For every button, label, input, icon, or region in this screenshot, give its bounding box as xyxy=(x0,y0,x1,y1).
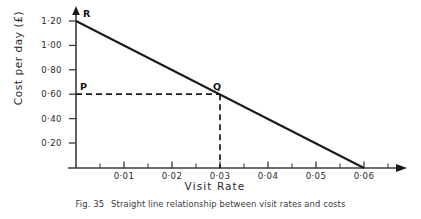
y-tick-label-0-60: 0·60 xyxy=(28,89,62,99)
y-tick-label-1-20: 1·20 xyxy=(28,16,62,26)
x-tick-label-0-06: 0·06 xyxy=(344,171,384,181)
x-tick-label-0-01: 0·01 xyxy=(104,171,144,181)
annotation-label-r: R xyxy=(83,8,90,19)
y-tick-label-0-40: 0·40 xyxy=(28,114,62,124)
x-tick-label-0-05: 0·05 xyxy=(296,171,336,181)
x-axis-arrow-icon xyxy=(396,164,407,172)
figure-straight-line-visit-rate-cost: Cost per day (£) 1·20 1·00 0·80 0·60 0·4… xyxy=(0,0,421,219)
y-tick-label-1-00: 1·00 xyxy=(28,40,62,50)
figure-caption: Fig. 35Straight line relationship betwee… xyxy=(0,199,421,209)
x-axis-label: Visit Rate xyxy=(150,180,280,192)
annotation-label-p: P xyxy=(80,81,87,92)
figure-caption-text: Straight line relationship between visit… xyxy=(111,199,345,209)
figure-number: Fig. 35 xyxy=(76,199,105,209)
y-axis-ticks xyxy=(69,21,76,143)
y-axis-arrow-icon xyxy=(72,6,80,15)
y-tick-label-0-20: 0·20 xyxy=(28,138,62,148)
y-axis-label: Cost per day (£) xyxy=(12,0,24,123)
annotation-label-q: Q xyxy=(213,81,221,92)
y-tick-label-0-80: 0·80 xyxy=(28,65,62,75)
